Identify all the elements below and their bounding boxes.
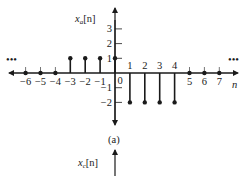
stem-dot [83,56,87,60]
stem-dot [172,100,176,104]
x-tick-label: −5 [35,76,46,87]
caption-a: (a) [108,134,120,146]
stem-dot [143,100,147,104]
x-tick-label: −3 [65,76,76,87]
y-axis-label-a: xa[n] [74,13,95,26]
x-tick-label: 0 [117,75,122,86]
x-tick-label: −4 [50,76,62,87]
x-tick-label: 7 [217,76,222,87]
stem-dot [38,71,42,75]
stem-dot [217,71,221,75]
y-ticks: 321−1−2 [101,23,122,108]
stem-plot-canvas: 321−1−2 −6−5−4−3−2−101234567 ••• ••• n x… [0,0,244,176]
y-tick-label: 1 [107,53,112,64]
stem-dot [128,100,132,104]
x-axis-label: n [232,79,237,90]
x-tick-label: 2 [142,60,147,71]
y-tick-label: −2 [101,97,112,108]
x-tick-label: 3 [157,60,162,71]
ellipsis-left: ••• [6,54,17,65]
x-tick-label: −6 [20,76,31,87]
y-tick-label: 2 [107,38,112,49]
stem-dot [98,56,102,60]
stem-dot [187,71,191,75]
y-axis-label-c: xc[n] [77,157,98,170]
stem-dot [113,56,117,60]
stem-dot [158,100,162,104]
x-tick-label: 4 [172,60,178,71]
x-tick-label: 5 [187,76,192,87]
y-tick-label: 3 [107,23,112,34]
figure-a-axes [9,8,238,125]
stem-dot [68,56,72,60]
x-tick-label: 6 [202,76,207,87]
stem-dot [202,71,206,75]
ellipsis-right: ••• [228,54,239,65]
stem-dot [23,71,27,75]
x-tick-label: −2 [80,76,91,87]
x-tick-label: 1 [127,60,132,71]
stem-dot [53,71,57,75]
x-tick-label: −1 [95,76,106,87]
